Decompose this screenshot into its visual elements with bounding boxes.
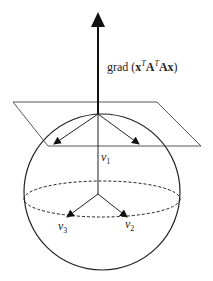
equator-ellipse: [24, 181, 180, 217]
gradient-label: grad (xTATAx): [107, 59, 178, 74]
v2-label: v2: [125, 217, 134, 233]
tangent-plane: [13, 102, 201, 146]
v3-label: v3: [58, 219, 67, 235]
gradient-arrowhead-icon: [91, 12, 105, 27]
v3-vector: [67, 194, 98, 217]
sphere: [24, 114, 180, 270]
sphere-gradient-diagram: grad (xTATAx) v1 v3 v2: [0, 0, 213, 281]
v2-vector: [98, 194, 127, 217]
tangent-vector-right: [98, 114, 139, 144]
v1-label: v1: [101, 150, 110, 166]
